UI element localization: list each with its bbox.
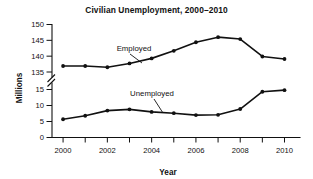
y-axis-break-icon [48, 75, 56, 87]
employed-point [128, 62, 132, 66]
employed-point [216, 35, 220, 39]
y-tick-label: 135 [31, 68, 44, 77]
y-tick-label: 145 [31, 36, 44, 45]
series-label-unemployed: Unemployed [130, 89, 174, 98]
y-axis [48, 25, 56, 138]
chart-title: Civilian Unemployment, 2000–2010 [85, 5, 228, 15]
unemployment-line-chart: Civilian Unemployment, 2000–2010 Million… [0, 0, 313, 179]
y-tick-group-lower: 051015 [36, 85, 52, 142]
y-tick-label: 15 [36, 85, 44, 94]
series-label-employed: Employed [117, 44, 152, 53]
unemployed-point [61, 117, 65, 121]
unemployed-point [83, 114, 87, 118]
leader-line-unemployed [154, 99, 163, 113]
x-tick-label: 2002 [99, 146, 116, 155]
unemployed-point [283, 88, 287, 92]
unemployed-point [260, 90, 264, 94]
y-tick-label: 140 [31, 52, 44, 61]
employed-point [238, 37, 242, 41]
y-tick-group-upper: 135140145150 [31, 20, 52, 76]
unemployed-point [128, 107, 132, 111]
unemployed-point [238, 107, 242, 111]
employed-point [61, 64, 65, 68]
x-tick-label: 2000 [55, 146, 72, 155]
y-axis-title: Millions [15, 72, 24, 103]
employed-point [83, 64, 87, 68]
unemployed-point [216, 113, 220, 117]
x-tick-label: 2004 [143, 146, 160, 155]
x-tick-group: 200020022004200620082010 [55, 138, 293, 156]
employed-point [283, 57, 287, 61]
x-tick-label: 2006 [187, 146, 204, 155]
employed-point [260, 55, 264, 59]
unemployed-point [194, 113, 198, 117]
y-tick-label: 10 [36, 101, 44, 110]
unemployed-point [105, 109, 109, 113]
y-tick-label: 0 [40, 133, 44, 142]
series-employed [61, 35, 286, 69]
employed-point [105, 65, 109, 69]
x-tick-label: 2010 [276, 146, 293, 155]
employed-point [172, 49, 176, 53]
unemployed-point [172, 111, 176, 115]
chart-container: Civilian Unemployment, 2000–2010 Million… [0, 0, 313, 179]
x-tick-label: 2008 [232, 146, 249, 155]
y-tick-label: 5 [40, 117, 44, 126]
employed-point [150, 56, 154, 60]
employed-point [194, 40, 198, 44]
y-tick-label: 150 [31, 20, 44, 29]
x-axis-title: Year [159, 168, 177, 177]
unemployed-point [150, 110, 154, 114]
